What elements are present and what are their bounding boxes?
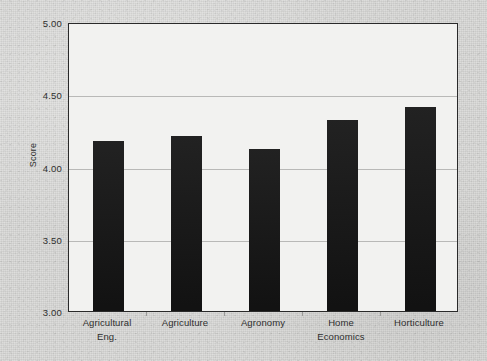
bar: [405, 107, 436, 311]
x-axis-tick-label: Horticulture: [380, 316, 458, 330]
y-axis-ticks: 5.004.504.003.503.00: [0, 23, 62, 312]
x-axis-tickmark: [146, 312, 147, 316]
x-axis-tick-label: Agriculture: [146, 316, 224, 330]
x-axis-tick-label: Agronomy: [224, 316, 302, 330]
x-axis-tickmark: [224, 312, 225, 316]
x-axis-ticks: AgriculturalEng.AgricultureAgronomyHomeE…: [68, 316, 458, 358]
x-axis-tick-label: AgriculturalEng.: [68, 316, 146, 343]
x-axis-tick-label-line: Agriculture: [146, 316, 224, 330]
x-axis-tickmark: [380, 312, 381, 316]
x-axis-tick-label-line: Agricultural: [68, 316, 146, 330]
x-axis-tickmark: [302, 312, 303, 316]
bar: [93, 141, 124, 312]
y-axis-tick-label: 5.00: [2, 18, 62, 29]
x-axis-tick-label-line: Horticulture: [380, 316, 458, 330]
x-axis-tick-label-line: Agronomy: [224, 316, 302, 330]
bar: [327, 120, 358, 311]
y-axis-tick-label: 3.50: [2, 234, 62, 245]
x-axis-tick-label-line: Economics: [302, 330, 380, 344]
x-axis-tick-label-line: Eng.: [68, 330, 146, 344]
bar: [171, 136, 202, 311]
bar: [249, 149, 280, 311]
x-axis-tick-label-line: Home: [302, 316, 380, 330]
y-axis-tick-label: 3.00: [2, 307, 62, 318]
y-axis-tick-label: 4.00: [2, 162, 62, 173]
gridline: [69, 96, 457, 97]
y-axis-tick-label: 4.50: [2, 90, 62, 101]
plot-area: [68, 23, 458, 312]
x-axis-tick-label: HomeEconomics: [302, 316, 380, 343]
